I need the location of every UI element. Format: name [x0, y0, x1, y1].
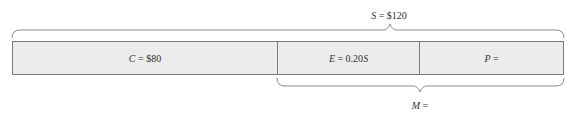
- total-sales-label: S = $120: [371, 10, 407, 21]
- segment-profit: P =: [419, 42, 563, 74]
- markup-value: =: [420, 100, 428, 111]
- variable-c: C: [129, 53, 136, 64]
- total-sales-value: = $120: [376, 10, 407, 21]
- segment-expenses: E = 0.20S: [277, 42, 419, 74]
- segment-cost: C = $80: [13, 42, 277, 74]
- expenses-value: = 0.20: [335, 53, 363, 64]
- top-brace: [12, 24, 564, 38]
- profit-value: =: [490, 53, 498, 64]
- cost-breakdown-bar: C = $80 E = 0.20S P =: [12, 41, 564, 75]
- cost-value: = $80: [136, 53, 162, 64]
- markup-label: M =: [412, 100, 428, 111]
- variable-s-ref: S: [363, 53, 368, 64]
- bottom-brace: [277, 78, 564, 92]
